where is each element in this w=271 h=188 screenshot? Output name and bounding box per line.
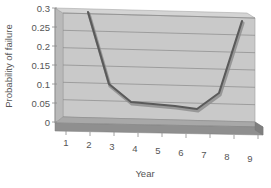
y-tick-label-1: 0.05 [32, 98, 51, 109]
x-tick-label-5: 5 [155, 145, 160, 156]
y-axis-tick-labels: 0.3 0.25 0.2 0.15 0.1 0.05 0 [32, 3, 51, 128]
chart-container: 0.3 0.25 0.2 0.15 0.1 0.05 0 Probability… [0, 0, 271, 188]
failure-probability-3d-line-chart: 0.3 0.25 0.2 0.15 0.1 0.05 0 Probability… [0, 0, 271, 188]
y-tick-label-2: 0.1 [37, 79, 50, 90]
x-tick-label-1: 1 [63, 137, 68, 148]
x-tick-label-9: 9 [247, 153, 252, 164]
x-tick-label-3: 3 [109, 141, 114, 152]
y-tick-label-6: 0.3 [37, 3, 50, 14]
plot-left-side-wall [55, 8, 63, 123]
y-tick-label-5: 0.25 [32, 22, 51, 33]
y-tick-label-4: 0.2 [37, 41, 50, 52]
y-axis-title: Probability of failure [3, 24, 14, 107]
y-tick-label-3: 0.15 [32, 60, 51, 71]
y-tick-label-0: 0 [45, 117, 50, 128]
x-tick-label-8: 8 [224, 151, 229, 162]
x-tick-label-2: 2 [86, 139, 91, 150]
x-axis-tick-labels: 1 2 3 4 5 6 7 8 9 [63, 137, 252, 164]
x-tick-label-6: 6 [178, 147, 183, 158]
x-tick-label-7: 7 [201, 149, 206, 160]
x-tick-label-4: 4 [132, 143, 137, 154]
x-axis-title: Year [135, 168, 154, 179]
